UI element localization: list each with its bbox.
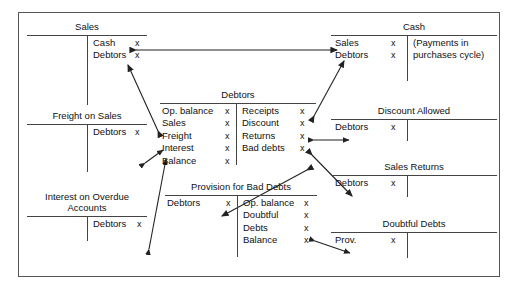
account-title-sales: Sales	[27, 21, 147, 32]
entry-label: Op. balance	[243, 197, 294, 209]
entry-row: Debtors x	[167, 197, 237, 209]
t-account-freight-on-sales: Freight on Sales Debtors x	[27, 110, 147, 172]
entry-row: Receipts x	[242, 105, 316, 117]
t-account-sales: Sales Cash x Debtors x	[27, 21, 147, 105]
entry-amount: x	[300, 130, 305, 142]
entry-amount: x	[304, 209, 309, 221]
t-account-debtors: Debtors Op. balance x Sales x Freight x …	[160, 89, 316, 177]
account-divider-provision-for-bad-debts	[237, 195, 238, 257]
credit-side-interest-on-overdue-accounts: Debtors x	[93, 218, 147, 230]
entry-row: Sales x	[162, 117, 236, 129]
entry-label: Prov.	[335, 234, 356, 246]
entry-label: Interest	[162, 142, 194, 154]
account-title-sales-returns: Sales Returns	[331, 161, 497, 172]
account-title-discount-allowed: Discount Allowed	[331, 105, 497, 116]
diagram-canvas: Sales Cash x Debtors x Freight on Sales	[0, 0, 519, 290]
entry-amount: x	[225, 142, 230, 154]
entry-row: Debtors x	[335, 49, 407, 61]
entry-label: Freight	[162, 130, 192, 142]
account-title-freight-on-sales: Freight on Sales	[27, 110, 147, 121]
entry-row: Balance x	[162, 155, 236, 167]
entry-amount: x	[304, 197, 309, 209]
t-account-discount-allowed: Discount Allowed Debtors x	[331, 105, 497, 147]
entry-row: Balance x	[243, 234, 317, 246]
entry-label: Debtors	[167, 197, 200, 209]
entry-row: Cash x	[93, 37, 147, 49]
entry-label: Balance	[162, 155, 196, 167]
debit-side-discount-allowed: Debtors x	[335, 121, 407, 133]
entry-amount: x	[137, 218, 142, 230]
entry-row: Bad debts x	[242, 142, 316, 154]
account-title-interest-on-overdue-accounts: Interest on Overdue Accounts	[27, 191, 147, 213]
entry-label: Debtors	[93, 218, 126, 230]
t-account-interest-on-overdue-accounts: Interest on Overdue Accounts Debtors x	[27, 191, 147, 253]
entry-row: Freight x	[162, 130, 236, 142]
credit-side-freight-on-sales: Debtors x	[93, 126, 147, 138]
entry-amount: x	[391, 37, 396, 49]
account-divider-doubtful-debts	[407, 232, 408, 258]
entry-row: Debtors x	[93, 126, 147, 138]
entry-label: Sales	[162, 117, 186, 129]
account-header-rule-sales-returns	[331, 175, 497, 176]
t-account-cash: Cash Sales x Debtors x (Payments in purc…	[331, 21, 497, 81]
account-title-cash: Cash	[331, 21, 497, 32]
entry-row: Debtors x	[93, 218, 147, 230]
entry-amount: x	[225, 155, 230, 167]
entry-amount: x	[135, 126, 140, 138]
diagram-frame: Sales Cash x Debtors x Freight on Sales	[18, 12, 500, 277]
account-divider-sales-returns	[407, 175, 408, 197]
entry-row: Returns x	[242, 130, 316, 142]
t-account-sales-returns: Sales Returns Debtors x	[331, 161, 497, 203]
credit-side-debtors: Receipts x Discount x Returns x Bad debt…	[242, 105, 316, 155]
entry-label: Cash	[93, 37, 115, 49]
t-account-provision-for-bad-debts: Provision for Bad Debts Debtors x Op. ba…	[165, 181, 317, 263]
entry-amount: x	[225, 117, 230, 129]
account-header-rule-discount-allowed	[331, 119, 497, 120]
account-divider-debtors	[236, 103, 237, 165]
debit-side-cash: Sales x Debtors x	[335, 37, 407, 62]
entry-amount: x	[391, 121, 396, 133]
credit-side-sales: Cash x Debtors x	[93, 37, 147, 62]
entry-label: Sales	[335, 37, 359, 49]
entry-row: Doubtful x	[243, 209, 317, 221]
entry-label: Debtors	[93, 126, 126, 138]
entry-amount: x	[300, 142, 305, 154]
account-divider-sales	[87, 35, 88, 105]
entry-row: Debtors x	[93, 49, 147, 61]
account-header-rule-doubtful-debts	[331, 232, 497, 233]
entry-label: Debtors	[335, 49, 368, 61]
account-title-doubtful-debts: Doubtful Debts	[331, 218, 497, 229]
entry-amount: x	[135, 37, 140, 49]
entry-amount: x	[304, 222, 309, 234]
account-divider-interest-on-overdue-accounts	[87, 216, 88, 241]
entry-label: Receipts	[242, 105, 279, 117]
entry-amount: x	[300, 105, 305, 117]
entry-row: Interest x	[162, 142, 236, 154]
entry-label: Op. balance	[162, 105, 213, 117]
credit-side-provision-for-bad-debts: Op. balance x Doubtful x Debts x Balance…	[243, 197, 317, 247]
entry-label: Balance	[243, 234, 277, 246]
entry-row: Debtors x	[335, 121, 407, 133]
account-divider-freight-on-sales	[87, 124, 88, 172]
account-divider-discount-allowed	[407, 119, 408, 141]
entry-amount: x	[226, 197, 231, 209]
entry-label: Debtors	[335, 121, 368, 133]
debit-side-provision-for-bad-debts: Debtors x	[167, 197, 237, 209]
entry-label: Debtors	[335, 177, 368, 189]
entry-amount: x	[225, 105, 230, 117]
entry-label: Debts	[243, 222, 268, 234]
entry-amount: x	[135, 49, 140, 61]
account-title-provision-for-bad-debts: Provision for Bad Debts	[165, 181, 317, 192]
entry-row: Prov. x	[335, 234, 407, 246]
entry-amount: x	[391, 234, 396, 246]
entry-row: Debtors x	[335, 177, 407, 189]
entry-amount: x	[225, 130, 230, 142]
debit-side-debtors: Op. balance x Sales x Freight x Interest…	[162, 105, 236, 167]
entry-row: Sales x	[335, 37, 407, 49]
account-title-debtors: Debtors	[160, 89, 316, 100]
entry-label: Bad debts	[242, 142, 285, 154]
entry-row: Op. balance x	[162, 105, 236, 117]
entry-label: Returns	[242, 130, 275, 142]
entry-label: Doubtful	[243, 209, 278, 221]
account-header-rule-cash	[331, 35, 497, 36]
